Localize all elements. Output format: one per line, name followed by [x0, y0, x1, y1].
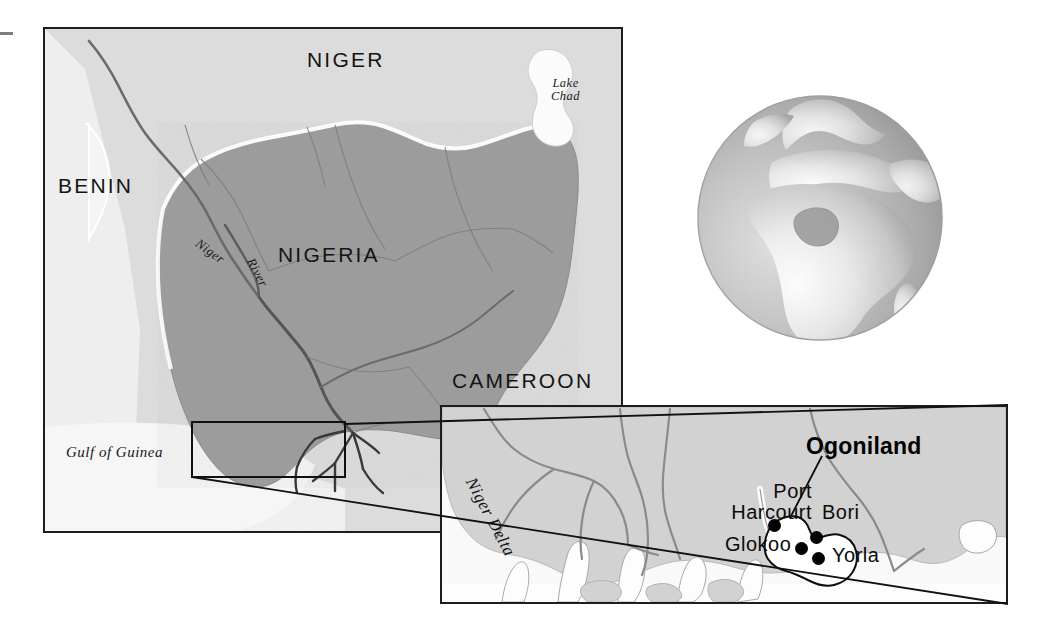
place-marker-yorla [812, 552, 825, 565]
east-coast-notch [959, 521, 996, 554]
place-label-port-harcourt: Port Harcourt [670, 481, 812, 523]
map-figure: NIGER BENIN NIGERIA CAMEROON Lake Chad G… [0, 0, 1054, 639]
place-marker-bori [810, 531, 823, 544]
locator-globe [694, 92, 946, 344]
ogoniland-inset-map: Ogoniland Niger Delta Port Harcourt Bori… [440, 405, 1008, 604]
place-label-glokoo: Glokoo [725, 534, 791, 555]
water-label-gulf-of-guinea: Gulf of Guinea [66, 444, 163, 461]
country-label-cameroon: CAMEROON [452, 369, 593, 393]
place-marker-port-harcourt [768, 519, 781, 532]
place-label-yorla: Yorla [832, 545, 879, 566]
globe-graphics [694, 92, 946, 344]
water-label-lake-chad: Lake Chad [551, 77, 580, 103]
country-label-benin: BENIN [58, 174, 133, 198]
country-label-nigeria: NIGERIA [278, 243, 380, 267]
region-label-ogoniland: Ogoniland [806, 433, 922, 460]
place-label-bori: Bori [822, 502, 860, 523]
country-label-niger: NIGER [307, 48, 385, 72]
edge-tick-mark [0, 32, 13, 35]
place-marker-glokoo [795, 542, 808, 555]
globe-specular [698, 96, 942, 340]
